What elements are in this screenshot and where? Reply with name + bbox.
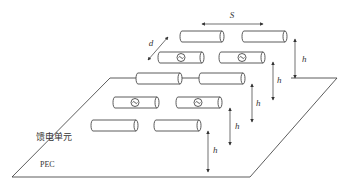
- spacing-label: S: [230, 10, 235, 20]
- fed-element: [113, 97, 159, 108]
- pec-label: PEC: [40, 160, 55, 169]
- parasitic-element: [242, 31, 287, 42]
- fed-element: [176, 97, 222, 108]
- fed-element: [219, 52, 265, 63]
- parasitic-element: [136, 73, 182, 84]
- spacing-dimension: S: [202, 10, 263, 24]
- height-label: h: [277, 75, 282, 85]
- parasitic-element: [199, 73, 245, 84]
- antenna-array-diagram: S d h h h h h 馈电单元 PEC: [0, 0, 359, 188]
- height-label: h: [213, 145, 218, 155]
- dipole-row-5: [91, 120, 201, 131]
- dipole-row-3: [136, 73, 245, 84]
- dipole-row-4: [113, 97, 222, 108]
- height-label: h: [302, 54, 307, 64]
- parasitic-element: [180, 31, 224, 42]
- height-label: h: [235, 121, 240, 131]
- height-label: h: [256, 98, 261, 108]
- feed-unit-label: 馈电单元: [36, 131, 72, 142]
- dipole-row-1: [180, 31, 287, 42]
- parasitic-element: [91, 120, 138, 131]
- depth-label: d: [149, 38, 154, 48]
- dipole-row-2: [158, 52, 265, 63]
- fed-element: [158, 52, 204, 63]
- parasitic-element: [154, 120, 201, 131]
